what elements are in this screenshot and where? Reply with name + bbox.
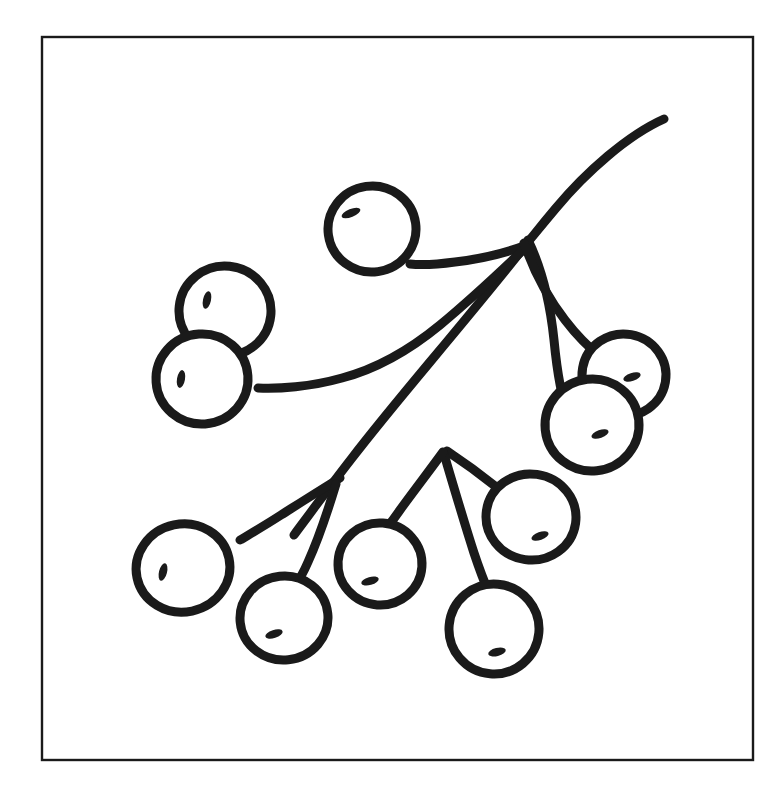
berry-branch-artboard [0, 0, 765, 790]
berry-right-lower-outline [540, 374, 643, 475]
berry-bottom-outline [445, 580, 543, 678]
berry-bottom [445, 580, 543, 678]
illustration-page [0, 0, 765, 790]
berry-middle [335, 520, 425, 608]
berry-second-bottom-outline [236, 572, 332, 665]
berry-middle-outline [335, 520, 425, 608]
berry-lower-left [153, 331, 251, 427]
berry-second-bottom [236, 572, 332, 665]
berry-lower-left-outline [153, 331, 251, 427]
berry-right-lower [540, 374, 643, 475]
